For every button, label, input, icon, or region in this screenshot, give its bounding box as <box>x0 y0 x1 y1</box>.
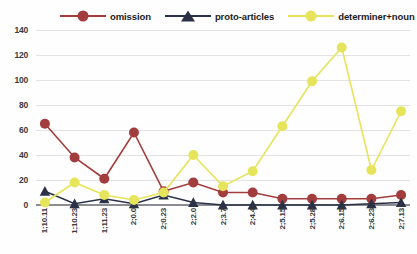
x-axis-tick-label: 2;2.0 <box>189 208 198 225</box>
legend-marker-circle-icon <box>306 11 317 22</box>
x-axis-tick: 2;5.28 <box>303 208 321 252</box>
data-point[interactable] <box>248 188 258 198</box>
data-point[interactable] <box>188 150 198 160</box>
y-axis-tick-label: 80 <box>19 100 28 110</box>
x-axis-tick: 1;11.23 <box>95 208 113 252</box>
legend-line-determiner-noun <box>288 15 334 17</box>
data-point[interactable] <box>40 119 50 129</box>
x-axis-tick-label: 2;5.15 <box>278 208 287 229</box>
legend-item-proto-articles[interactable]: proto-articles <box>165 11 274 22</box>
x-axis-tick-label: 2;7.13 <box>397 208 406 229</box>
y-axis-labels: 020406080100120140 <box>0 30 32 205</box>
x-axis-tick-label: 2;0.0 <box>129 208 138 225</box>
x-axis-tick: 2;7.13 <box>392 208 410 252</box>
x-axis-tick: 2;6.23 <box>362 208 380 252</box>
legend-label-determiner-noun: determiner+noun <box>338 11 414 22</box>
legend-line-proto-articles <box>165 15 211 17</box>
x-axis-tick: 2;0.23 <box>155 208 173 252</box>
y-axis-tick-label: 40 <box>19 150 28 160</box>
x-axis-tick: 2;2.0 <box>184 208 202 252</box>
series-line <box>45 48 401 203</box>
data-point[interactable] <box>396 106 406 116</box>
y-axis-tick-label: 0 <box>23 200 28 210</box>
data-point[interactable] <box>366 165 376 175</box>
y-axis-tick-label: 60 <box>19 125 28 135</box>
legend-label-proto-articles: proto-articles <box>215 11 274 22</box>
legend-marker-triangle-icon <box>181 11 195 22</box>
data-series-layer <box>36 30 410 205</box>
x-axis-tick-label: 1;10.23 <box>70 208 79 234</box>
x-axis-tick: 2;6.15 <box>333 208 351 252</box>
x-axis-tick-label: 1;10.11 <box>40 208 49 233</box>
x-axis-tick: 2;5.15 <box>273 208 291 252</box>
data-point[interactable] <box>337 43 347 53</box>
x-axis-tick-label: 2;6.15 <box>337 208 346 229</box>
data-point[interactable] <box>188 178 198 188</box>
x-axis-tick-label: 1;11.23 <box>100 208 109 233</box>
legend-line-omission <box>60 15 106 17</box>
legend-item-determiner-noun[interactable]: determiner+noun <box>288 11 414 22</box>
line-chart: omission proto-articles determiner+noun … <box>0 0 417 254</box>
x-axis-tick-label: 2;0.23 <box>159 208 168 229</box>
x-axis-labels: 1;10.111;10.231;11.232;0.02;0.232;2.02;3… <box>36 206 410 254</box>
data-point[interactable] <box>129 195 139 205</box>
x-axis-tick-label: 2;3.7 <box>219 208 228 225</box>
data-point[interactable] <box>218 181 228 191</box>
data-point[interactable] <box>307 76 317 86</box>
y-axis-tick-label: 100 <box>14 75 28 85</box>
data-point[interactable] <box>99 174 109 184</box>
x-axis-tick: 1;10.23 <box>66 208 84 252</box>
data-point[interactable] <box>99 190 109 200</box>
legend-marker-circle-icon <box>78 11 89 22</box>
data-point[interactable] <box>40 186 50 196</box>
data-point[interactable] <box>70 178 80 188</box>
x-axis-tick: 1;10.11 <box>36 208 54 252</box>
x-axis-tick: 2;0.0 <box>125 208 143 252</box>
data-point[interactable] <box>70 153 80 163</box>
x-axis-tick-label: 2;4.4 <box>248 208 257 225</box>
x-axis-tick-label: 2;6.23 <box>367 208 376 229</box>
x-axis-tick: 2;3.7 <box>214 208 232 252</box>
y-axis-tick-label: 120 <box>14 50 28 60</box>
data-point[interactable] <box>159 188 169 198</box>
legend-item-omission[interactable]: omission <box>60 11 151 22</box>
x-axis-tick-label: 2;5.28 <box>308 208 317 229</box>
chart-legend: omission proto-articles determiner+noun <box>60 5 410 27</box>
series-determiner-noun <box>40 43 406 208</box>
data-point[interactable] <box>129 128 139 138</box>
y-axis-tick-label: 20 <box>19 175 28 185</box>
y-axis-tick-label: 140 <box>14 25 28 35</box>
data-point[interactable] <box>248 166 258 176</box>
x-axis-tick: 2;4.4 <box>244 208 262 252</box>
legend-label-omission: omission <box>110 11 151 22</box>
data-point[interactable] <box>277 121 287 131</box>
